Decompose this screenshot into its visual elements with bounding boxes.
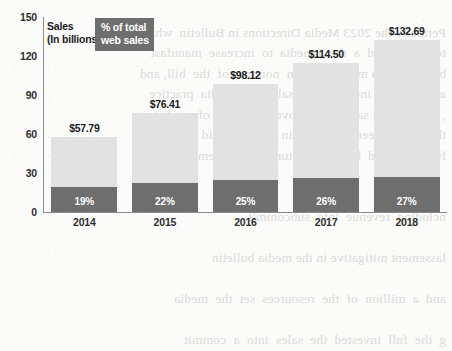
bar-percent-label: 26% xyxy=(293,196,359,207)
y-axis-tick: 60 xyxy=(9,128,37,140)
bleedthrough-line xyxy=(6,310,446,331)
legend-percent-line2: web sales xyxy=(101,34,149,47)
bar-value-label: $114.50 xyxy=(279,48,373,60)
y-axis-tick: 150 xyxy=(9,11,37,23)
bar-percent-label: 25% xyxy=(213,196,279,207)
x-axis-tick: 2018 xyxy=(374,216,440,228)
bar-group: 27%$132.69 xyxy=(374,17,440,212)
bar-percent-label: 27% xyxy=(374,196,440,207)
legend-sales-label: Sales (In billions) xyxy=(47,20,100,46)
bar-group: 26%$114.50 xyxy=(293,17,359,212)
bar-percent-label: 19% xyxy=(51,196,117,207)
legend-sales-line1: Sales xyxy=(47,20,100,33)
bar-value-label: $132.69 xyxy=(360,25,452,37)
y-axis-tick: 30 xyxy=(9,167,37,179)
y-axis-tick: 90 xyxy=(9,89,37,101)
x-axis-tick: 2016 xyxy=(213,216,279,228)
bar-group: 25%$98.12 xyxy=(213,17,279,212)
bar-value-label: $57.79 xyxy=(37,122,131,134)
legend-sales-line2: (In billions) xyxy=(47,33,100,46)
bleedthrough-line: and a million of the resources set the m… xyxy=(6,289,446,310)
legend-percent-badge: % of total web sales xyxy=(95,18,154,51)
legend-percent-line1: % of total xyxy=(101,21,149,34)
bleedthrough-line: g the full invested the sales into a com… xyxy=(6,330,446,351)
bar-percent-label: 22% xyxy=(132,196,198,207)
x-axis-tick: 2014 xyxy=(51,216,117,228)
bleedthrough-line xyxy=(6,269,446,290)
bar-value-label: $76.41 xyxy=(118,98,212,110)
x-axis-tick: 2017 xyxy=(293,216,359,228)
x-axis-tick: 2015 xyxy=(132,216,198,228)
y-axis-tick: 0 xyxy=(9,206,37,218)
bar-value-label: $98.12 xyxy=(199,69,293,81)
y-axis-tick: 120 xyxy=(9,50,37,62)
